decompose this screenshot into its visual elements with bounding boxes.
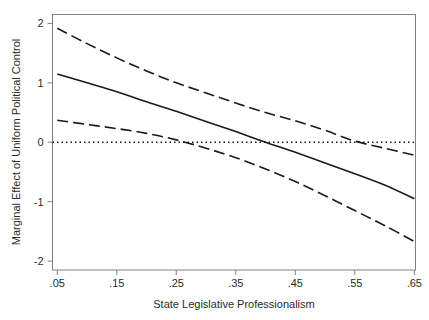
y-axis-title: Marginal Effect of Uniform Political Con… — [10, 39, 22, 245]
figure-container: -2-1012 .05.15.25.35.45.55.65 State Legi… — [0, 0, 429, 320]
x-tick-label: .65 — [407, 277, 422, 289]
marginal-effect-plot: -2-1012 .05.15.25.35.45.55.65 State Legi… — [0, 0, 429, 320]
x-tick-label: .55 — [347, 277, 362, 289]
x-tick-label: .45 — [288, 277, 303, 289]
y-tick-label: -1 — [34, 196, 44, 208]
y-tick-label: -2 — [34, 255, 44, 267]
y-tick-label: 2 — [37, 17, 43, 29]
x-tick-label: .35 — [228, 277, 243, 289]
x-tick-label: .05 — [50, 277, 65, 289]
plot-background — [0, 0, 429, 320]
x-tick-label: .25 — [169, 277, 184, 289]
x-tick-label: .15 — [109, 277, 124, 289]
y-tick-label: 0 — [37, 136, 43, 148]
x-axis-title: State Legislative Professionalism — [153, 298, 314, 310]
y-tick-label: 1 — [37, 77, 43, 89]
